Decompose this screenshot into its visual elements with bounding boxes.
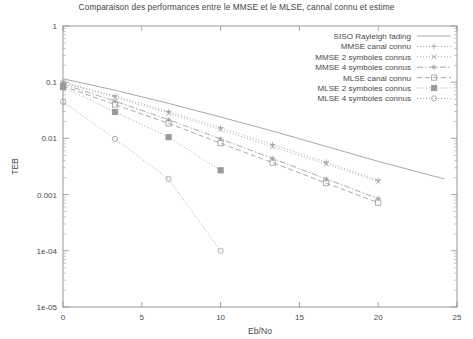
legend-label: MLSE 4 symboles connus xyxy=(317,94,411,103)
y-tick-label: 1e-05 xyxy=(37,303,58,312)
y-tick-label: 1 xyxy=(53,22,58,31)
legend-label: MMSE canal connu xyxy=(341,42,411,51)
series-line xyxy=(63,86,378,202)
series-5 xyxy=(60,84,223,173)
x-axis-title: Eb/No xyxy=(248,326,272,336)
x-tick-label: 5 xyxy=(140,313,145,322)
legend-entry-3: MMSE 4 symboles connus xyxy=(315,63,451,72)
y-tick-label: 0.001 xyxy=(37,191,58,200)
series-line xyxy=(63,87,221,170)
x-tick-label: 10 xyxy=(216,313,225,322)
plot-canvas: 051015202510.10.010.0011e-041e-05Eb/NoTE… xyxy=(0,0,473,339)
x-tick-label: 20 xyxy=(374,313,383,322)
legend-entry-2: MMSE 2 symboles connus xyxy=(315,53,451,62)
legend-label: MMSE 4 symboles connus xyxy=(315,63,411,72)
x-tick-label: 15 xyxy=(295,313,304,322)
y-axis-title: TEB xyxy=(10,158,20,175)
data-marker xyxy=(431,85,436,90)
data-marker xyxy=(112,109,117,114)
x-tick-label: 0 xyxy=(61,313,66,322)
legend-label: MMSE 2 symboles connus xyxy=(315,53,411,62)
legend-entry-4: MLSE canal connu xyxy=(343,74,451,83)
data-marker xyxy=(218,168,223,173)
legend-label: MLSE 2 symboles connus xyxy=(317,84,411,93)
x-tick-label: 25 xyxy=(453,313,462,322)
data-marker xyxy=(166,135,171,140)
data-marker xyxy=(60,84,65,89)
y-tick-label: 0.01 xyxy=(41,134,57,143)
legend-entry-5: MLSE 2 symboles connus xyxy=(317,84,451,93)
legend-entry-0: SISO Rayleigh fading xyxy=(334,32,451,41)
y-tick-label: 0.1 xyxy=(46,78,58,87)
legend-entry-6: MLSE 4 symboles connus xyxy=(317,94,451,103)
series-6 xyxy=(60,99,223,253)
y-tick-label: 1e-04 xyxy=(37,247,58,256)
data-marker xyxy=(166,176,171,181)
legend-label: MLSE canal connu xyxy=(343,74,411,83)
legend-entry-1: MMSE canal connu xyxy=(341,42,451,51)
chart-figure: Comparaison des performances entre le MM… xyxy=(0,0,473,339)
legend-label: SISO Rayleigh fading xyxy=(334,32,411,41)
series-line xyxy=(63,102,221,251)
